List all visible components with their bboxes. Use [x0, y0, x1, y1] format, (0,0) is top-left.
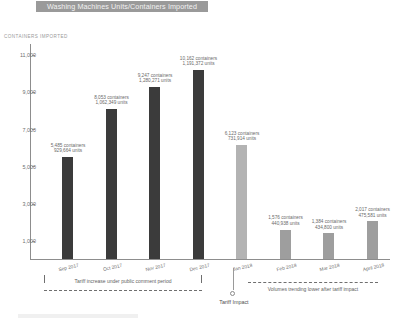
y-axis-tick-mark: [32, 241, 35, 242]
y-axis-tick-mark: [32, 129, 35, 130]
bar-value-label: 8,053 containers1,062,349 units: [78, 95, 146, 106]
y-axis-tick-mark: [32, 92, 35, 93]
trend-note-label: Volumes trending lower after tariff impa…: [240, 286, 386, 292]
comment-period-dashed-line: [44, 290, 202, 291]
bar-value-label: 6,123 containers731,914 units: [208, 131, 276, 142]
y-axis-line: [30, 44, 31, 260]
y-axis-tick: 9,000: [2, 88, 36, 96]
bar-value-label: 9,247 containers1,280,271 units: [121, 73, 189, 84]
bar-rect[interactable]: [236, 145, 247, 259]
y-axis-caption: CONTAINERS IMPORTED: [4, 34, 68, 39]
bar-rect[interactable]: [106, 109, 117, 259]
bar-units-label: 1,062,349 units: [78, 100, 146, 106]
tariff-impact-marker-icon: [230, 291, 235, 296]
comment-period-annotation: Tariff increase under public comment per…: [44, 278, 202, 284]
y-axis-tick: 11,000: [2, 51, 36, 59]
tariff-impact-label: Tariff Impact: [205, 299, 263, 305]
y-axis-tick: 3,000: [2, 200, 36, 208]
trend-dashed-line: [248, 282, 378, 283]
y-axis-tick: 5,000: [2, 163, 36, 171]
bracket-tick-right: [201, 275, 202, 283]
comment-period-label: Tariff increase under public comment per…: [44, 278, 202, 284]
y-axis-tick-mark: [32, 55, 35, 56]
bar-units-label: 1,191,372 units: [165, 61, 233, 67]
bracket-tick-left: [44, 275, 45, 283]
tariff-impact-stem: [233, 268, 234, 290]
bar-rect[interactable]: [280, 230, 291, 259]
y-axis-tick-mark: [32, 204, 35, 205]
bar-rect[interactable]: [193, 70, 204, 259]
y-axis-tick-mark: [32, 166, 35, 167]
y-axis-tick: 7,000: [2, 126, 36, 134]
footer-artifact: [18, 314, 138, 318]
bar-rect[interactable]: [367, 221, 378, 259]
bar-units-label: 1,280,271 units: [121, 78, 189, 84]
chart-plot-area: 1,0003,0005,0007,0009,00011,000 5,485 co…: [30, 44, 390, 260]
bar-units-label: 434,800 units: [295, 225, 363, 231]
page-title: Washing Machines Units/Containers Import…: [47, 2, 197, 11]
bar-units-label: 929,664 units: [34, 148, 102, 154]
chart-title-banner: Washing Machines Units/Containers Import…: [36, 1, 208, 12]
bar-rect[interactable]: [323, 233, 334, 259]
bar-value-label: 2,017 containers475,581 units: [339, 207, 396, 218]
bar-value-label: 10,162 containers1,191,372 units: [165, 56, 233, 67]
x-axis-line: [30, 259, 390, 260]
y-axis-tick: 1,000: [2, 237, 36, 245]
bar-units-label: 731,914 units: [208, 136, 276, 142]
bar-value-label: 5,485 containers929,664 units: [34, 143, 102, 154]
bar-units-label: 475,581 units: [339, 213, 396, 219]
bar-rect[interactable]: [149, 87, 160, 259]
bar-rect[interactable]: [62, 157, 73, 259]
bar-value-label: 1,384 containers434,800 units: [295, 219, 363, 230]
